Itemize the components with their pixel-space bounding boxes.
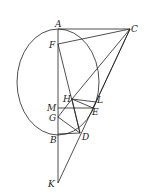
label-C: C (131, 24, 138, 34)
label-D: D (81, 132, 89, 142)
label-G: G (49, 113, 56, 123)
segments (58, 29, 130, 183)
label-E: E (91, 107, 99, 117)
label-K: K (47, 179, 56, 189)
segment-CL (96, 29, 130, 102)
label-A: A (54, 19, 62, 29)
geometry-diagram: ACFHLEMGBDK (0, 0, 147, 196)
label-B: B (49, 135, 57, 145)
label-H: H (62, 94, 71, 104)
label-L: L (96, 95, 103, 105)
segment-BD (58, 133, 80, 134)
label-M: M (46, 103, 57, 113)
label-F: F (48, 40, 56, 50)
point-labels: ACFHLEMGBDK (46, 19, 138, 189)
